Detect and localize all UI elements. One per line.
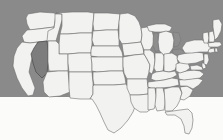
state-florida[interactable]: [165, 109, 193, 134]
lake-huron: [173, 32, 181, 47]
state-maryland[interactable]: [190, 65, 203, 70]
state-colorado[interactable]: [68, 53, 92, 72]
state-michigan-lower-peninsula[interactable]: [158, 31, 174, 55]
lake-michigan: [153, 33, 159, 52]
state-alabama[interactable]: [155, 88, 165, 111]
united-states-map-svg: [0, 0, 223, 140]
state-new-mexico[interactable]: [69, 72, 93, 99]
state-south-dakota[interactable]: [92, 30, 119, 46]
state-arizona[interactable]: [43, 71, 70, 97]
state-mississippi[interactable]: [148, 88, 156, 110]
state-montana[interactable]: [56, 12, 94, 34]
state-indiana[interactable]: [154, 53, 164, 72]
state-vermont[interactable]: [203, 32, 209, 43]
state-north-dakota[interactable]: [93, 13, 120, 31]
state-massachusetts[interactable]: [208, 42, 222, 47]
state-oklahoma[interactable]: [93, 71, 126, 85]
state-connecticut[interactable]: [208, 48, 215, 53]
state-arkansas[interactable]: [127, 79, 148, 95]
state-nebraska[interactable]: [91, 46, 123, 57]
state-wyoming[interactable]: [59, 33, 92, 54]
state-iowa[interactable]: [122, 42, 144, 56]
state-michigan-upper-peninsula[interactable]: [147, 24, 172, 32]
state-rhode-island[interactable]: [215, 48, 218, 52]
state-new-jersey[interactable]: [204, 54, 209, 65]
us-locator-map: [0, 0, 223, 140]
state-minnesota[interactable]: [119, 13, 142, 44]
state-georgia[interactable]: [164, 87, 182, 111]
state-kansas[interactable]: [91, 57, 123, 72]
state-maine[interactable]: [213, 19, 222, 40]
